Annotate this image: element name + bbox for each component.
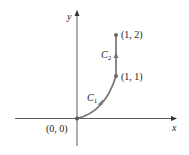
line-integral-diagram: y x (0, 0) (1, 1) (1, 2) C1 C2 — [0, 0, 189, 155]
point-1-1 — [114, 74, 118, 78]
point-1-2 — [114, 33, 118, 37]
point-1-2-label: (1, 2) — [121, 29, 143, 41]
c2-direction-arrow-icon — [114, 52, 119, 58]
y-axis-label: y — [66, 11, 72, 22]
c1-label: C1 — [87, 92, 98, 105]
x-axis-label: x — [171, 122, 177, 133]
point-origin — [75, 117, 79, 121]
point-1-1-label: (1, 1) — [121, 71, 143, 83]
c1-direction-arrow-icon — [98, 100, 104, 106]
c2-label: C2 — [101, 49, 112, 62]
origin-label: (0, 0) — [46, 123, 68, 135]
